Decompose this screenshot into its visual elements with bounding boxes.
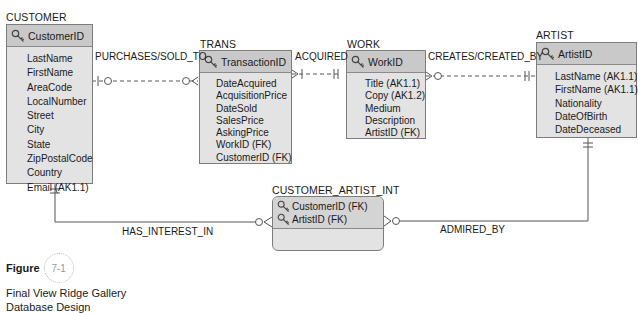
figure-label: Figure 7-1 (6, 253, 74, 283)
entity-attributes-trans: DateAcquired AcquisitionPrice DateSold S… (200, 73, 291, 168)
entity-work[interactable]: WorkID Title (AK1.1) Copy (AK1.2) Medium… (346, 50, 426, 139)
entity-trans[interactable]: TransactionID DateAcquired AcquisitionPr… (199, 50, 292, 164)
figure-number-badge: 7-1 (44, 253, 74, 283)
entity-attributes-work: Title (AK1.1) Copy (AK1.2) Medium Descri… (347, 73, 425, 143)
entity-title-artist: ARTIST (536, 29, 574, 41)
entity-key-trans: TransactionID (200, 51, 291, 73)
entity-title-customer-artist-int: CUSTOMER_ARTIST_INT (272, 184, 400, 196)
key-icon (277, 213, 290, 226)
entity-key-artist: ArtistID (537, 43, 636, 65)
key-icon (277, 200, 290, 213)
entity-customer[interactable]: CustomerID LastName FirstName AreaCode L… (6, 24, 93, 184)
relationship-label-purchases: PURCHASES/SOLD_TO (95, 51, 207, 62)
relationship-label-acquired: ACQUIRED (295, 51, 348, 62)
entity-customer-artist-int[interactable]: CustomerID (FK) ArtistID (FK) (272, 196, 384, 251)
entity-key-customer: CustomerID (7, 25, 92, 47)
key-icon (11, 29, 25, 43)
relationship-label-creates: CREATES/CREATED_BY (428, 51, 543, 62)
entity-key-work: WorkID (347, 51, 425, 73)
entity-artist[interactable]: ArtistID LastName (AK1.1) FirstName (AK1… (536, 42, 637, 138)
entity-attributes-customer: LastName FirstName AreaCode LocalNumber … (7, 47, 92, 199)
figure-caption-line2: Database Design (6, 301, 90, 313)
relationship-label-admired-by: ADMIRED_BY (440, 224, 505, 235)
entity-title-trans: TRANS (200, 38, 236, 50)
entity-attributes-artist: LastName (AK1.1) FirstName (AK1.1) Natio… (537, 65, 636, 140)
key-icon (351, 55, 365, 69)
figure-caption-line1: Final View Ridge Gallery (6, 287, 126, 299)
entity-title-customer: CUSTOMER (6, 11, 67, 23)
entity-title-work: WORK (347, 38, 380, 50)
entity-keys-customer-artist-int: CustomerID (FK) ArtistID (FK) (273, 197, 383, 229)
relationship-label-has-interest: HAS_INTEREST_IN (122, 226, 213, 237)
